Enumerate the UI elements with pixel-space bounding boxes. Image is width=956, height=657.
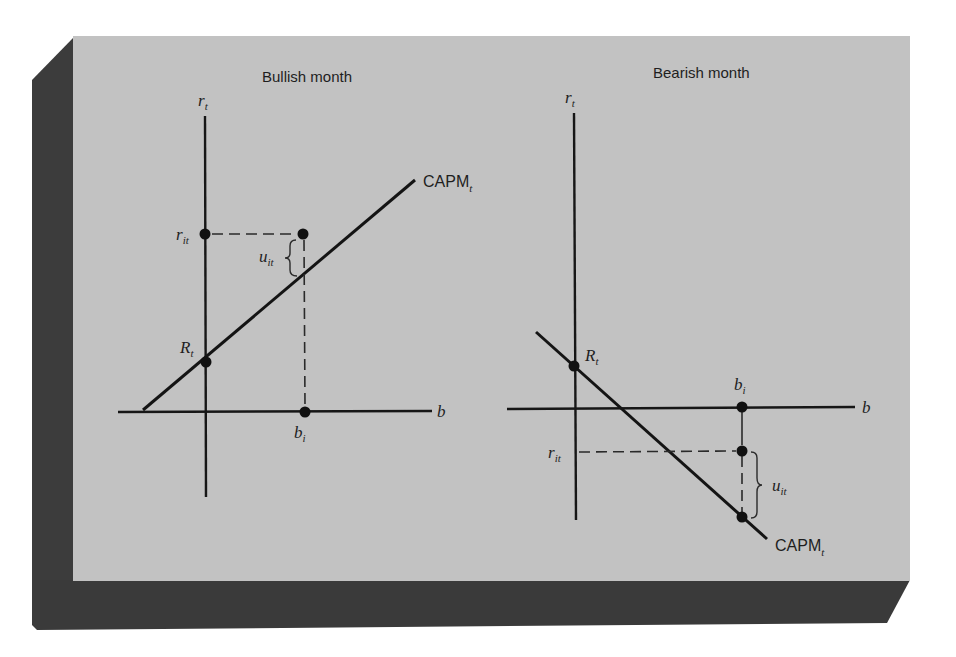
capm-diagram-figure: Bullish month rt b CAPMt uit rit Rt bbox=[0, 0, 956, 657]
frame-shadow-corner bbox=[32, 580, 40, 630]
bearish-observed-point bbox=[737, 446, 748, 457]
bearish-bi-point bbox=[737, 402, 748, 413]
bullish-title: Bullish month bbox=[262, 68, 352, 85]
bullish-x-axis-label: b bbox=[437, 402, 446, 421]
bearish-capm-prediction-point bbox=[737, 512, 748, 523]
bullish-x-axis bbox=[118, 411, 432, 412]
bullish-observed-point bbox=[298, 229, 309, 240]
bullish-bi-point bbox=[300, 407, 311, 418]
bearish-x-axis-label: b bbox=[862, 398, 871, 417]
bearish-Rt-point bbox=[569, 361, 580, 372]
diagram-panel-background bbox=[73, 36, 910, 581]
frame-shadow-left bbox=[32, 38, 73, 580]
frame-shadow-bottom bbox=[37, 580, 910, 630]
bullish-Rt-point bbox=[201, 357, 212, 368]
bearish-title: Bearish month bbox=[653, 64, 750, 81]
bullish-rit-point bbox=[200, 229, 211, 240]
bullish-y-axis bbox=[205, 116, 206, 497]
